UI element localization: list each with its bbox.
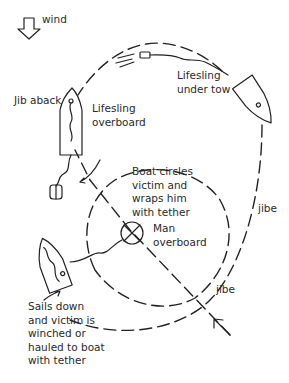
jibe-label-lower: jibe: [216, 283, 235, 297]
tether-line: [70, 240, 122, 262]
boat-jib-aback-icon: [60, 88, 82, 155]
boat-top-right-icon: [233, 75, 281, 130]
wind-label: wind: [42, 13, 67, 27]
lifesling-under-tow-label: Lifesling under tow: [177, 69, 230, 96]
sails-down-label: Sails down and victim is winched or haul…: [28, 300, 105, 368]
lifesling-overboard-label: Lifesling overboard: [92, 102, 146, 129]
man-overboard-label: Man overboard: [153, 222, 207, 249]
wind-arrow-icon: [18, 18, 40, 39]
man-overboard-icon: [121, 222, 143, 244]
lifesling-under-tow-icon: [116, 52, 150, 67]
boat-sails-down-icon: [31, 234, 72, 293]
approach-arrow-icon: [214, 319, 230, 335]
jibe-label-upper: jibe: [258, 202, 277, 216]
jib-aback-label: Jib aback: [14, 94, 61, 108]
lifesling-line: [56, 155, 71, 186]
lifesling-overboard-icon: [50, 185, 62, 199]
boat-circles-label: Boat circles victim and wraps him with t…: [132, 165, 193, 219]
